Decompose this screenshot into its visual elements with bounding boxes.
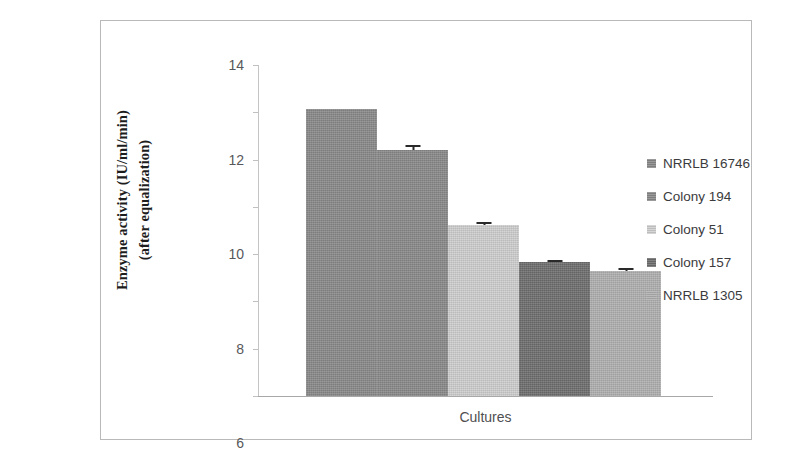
- legend-label: NRRLB 16746: [663, 156, 750, 171]
- y-axis-tick-label: 6: [236, 435, 244, 451]
- y-axis-tick-label: 8: [236, 341, 244, 357]
- chart-legend: NRRLB 16746Colony 194Colony 51Colony 157…: [647, 147, 793, 312]
- legend-item: Colony 51: [647, 213, 793, 246]
- y-axis-title-line2: (after equalization): [133, 140, 155, 261]
- legend-item: NRRLB 16746: [647, 147, 793, 180]
- y-axis-title: Enzyme activity (IU/ml/min) (after equal…: [102, 50, 164, 350]
- error-bar-cap: [547, 260, 562, 262]
- legend-label: NRRLB 1305: [663, 288, 743, 303]
- legend-item: Colony 194: [647, 180, 793, 213]
- bar-rect: [377, 150, 448, 396]
- legend-item: Colony 157: [647, 246, 793, 279]
- y-axis-title-line1: Enzyme activity (IU/ml/min): [111, 110, 133, 290]
- x-axis-title: Cultures: [258, 409, 713, 425]
- y-axis-tick-label: 10: [228, 246, 244, 262]
- legend-swatch-icon: [647, 225, 656, 234]
- plot-area: 02468101214: [258, 65, 713, 396]
- bar-rect: [306, 109, 377, 396]
- error-bar-cap: [476, 222, 491, 224]
- legend-item: NRRLB 1305: [647, 279, 793, 312]
- legend-label: Colony 194: [663, 189, 731, 204]
- legend-label: Colony 157: [663, 255, 731, 270]
- error-bar-cap: [405, 145, 420, 147]
- bar: [519, 262, 590, 396]
- bar: [448, 225, 519, 396]
- x-axis-line: [258, 396, 713, 397]
- bar: [306, 109, 377, 396]
- legend-label: Colony 51: [663, 222, 724, 237]
- bar-rect: [519, 262, 590, 396]
- chart-frame: 02468101214 Enzyme activity (IU/ml/min) …: [100, 20, 752, 440]
- bar-rect: [448, 225, 519, 396]
- legend-swatch-icon: [647, 291, 656, 300]
- legend-swatch-icon: [647, 192, 656, 201]
- bar: [377, 150, 448, 396]
- y-axis-tick-label: 12: [228, 152, 244, 168]
- y-axis-tick-label: 14: [228, 57, 244, 73]
- legend-swatch-icon: [647, 159, 656, 168]
- y-axis-tick-mark: 0: [253, 396, 258, 397]
- legend-swatch-icon: [647, 258, 656, 267]
- bars-layer: [258, 65, 713, 396]
